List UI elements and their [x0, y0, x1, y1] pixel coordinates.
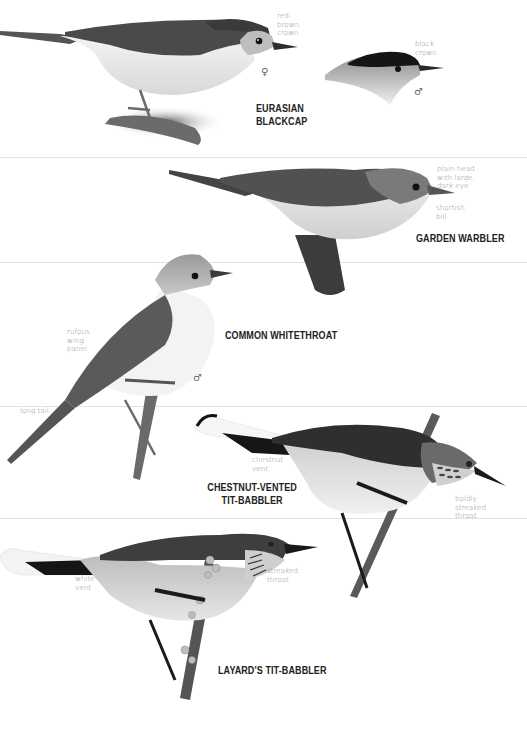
- female-symbol: ♀: [261, 67, 268, 77]
- species-name-garden-warbler: GARDEN WARBLER: [416, 232, 504, 245]
- annotation-shortish-bill: shortish bill: [436, 204, 465, 221]
- species-name-line: EURASIAN: [256, 102, 307, 115]
- male-symbol: ♂: [193, 373, 202, 383]
- field-guide-page: red- brown crown ♀ black crown ♂ EURASIA…: [0, 0, 527, 731]
- annotation-plain-head: plain head with large, dark eye: [437, 165, 475, 191]
- annotation-rufous-wing-panel: rufous wing panel: [67, 328, 90, 354]
- species-name-line: BLACKCAP: [256, 115, 307, 128]
- annotation-red-brown-crown: red- brown crown: [277, 12, 299, 38]
- species-name-line: CHESTNUT-VENTED: [207, 481, 297, 494]
- layards-tit-babbler-illustration: [0, 520, 320, 710]
- male-symbol: ♂: [414, 87, 423, 97]
- annotation-long-tail: long tail: [20, 407, 49, 416]
- species-name-chestnut-vented-tit-babbler: CHESTNUT-VENTED TIT-BABBLER: [207, 481, 297, 507]
- species-name-common-whitethroat: COMMON WHITETHROAT: [225, 329, 337, 342]
- annotation-boldly-streaked-throat: boldly streaked throat: [455, 495, 486, 521]
- species-name-eurasian-blackcap: EURASIAN BLACKCAP: [256, 102, 307, 128]
- species-name-layards-tit-babbler: LAYARD'S TIT-BABBLER: [218, 664, 327, 677]
- annotation-chestnut-vent: chestnut vent: [252, 456, 283, 473]
- blackcap-female-illustration: [0, 0, 300, 150]
- annotation-streaked-throat: streaked throat: [267, 567, 298, 584]
- species-name-line: TIT-BABBLER: [207, 494, 297, 507]
- section-divider: [0, 157, 527, 158]
- annotation-black-crown: black crown: [415, 40, 437, 57]
- annotation-white-vent: white vent: [75, 575, 95, 592]
